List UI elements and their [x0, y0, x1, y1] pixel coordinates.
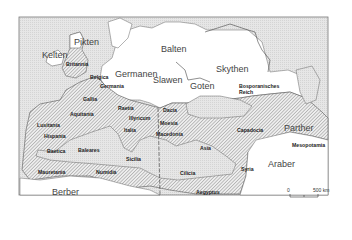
province-label: Mauretania [38, 170, 65, 175]
province-label: Mesopotamia [292, 143, 325, 148]
province-label: Syria [241, 167, 254, 172]
province-label: Raetia [118, 106, 134, 111]
province-label: Reich [239, 90, 253, 95]
people-label: Pikten [74, 38, 99, 47]
province-label: Lusitania [37, 123, 60, 128]
scale-start-label: 0 [287, 187, 290, 193]
province-label: Baleares [78, 148, 100, 153]
province-label: Sicilia [126, 157, 141, 162]
people-label: Germanen [115, 70, 158, 79]
province-label: Dacia [163, 108, 177, 113]
province-label: Italia [124, 128, 136, 133]
province-label: Capadocia [237, 128, 263, 133]
people-label: Goten [190, 82, 215, 91]
province-label: Belgica [90, 75, 108, 80]
province-label: Gallia [83, 97, 97, 102]
people-label: Skythen [216, 65, 249, 74]
people-label: Kelten [42, 51, 68, 60]
people-label: Parther [284, 124, 314, 133]
people-label: Berber [52, 188, 79, 197]
province-label: Illyricum [129, 116, 150, 121]
province-label: Macedonia [156, 132, 183, 137]
province-label: Moesia [160, 121, 178, 126]
scale-end-label: 500 km [313, 187, 329, 193]
people-label: Araber [268, 160, 295, 169]
province-label: Numidia [96, 170, 116, 175]
people-label: Balten [161, 45, 187, 54]
province-label: Britannia [66, 62, 88, 67]
province-label: Hispania [44, 134, 66, 139]
province-label: Baetica [47, 149, 65, 154]
province-label: Germania [100, 84, 124, 89]
province-label: Cilicia [180, 171, 195, 176]
people-label: Slawen [153, 76, 183, 85]
province-label: Aegyptus [196, 190, 220, 195]
province-label: Asia [200, 146, 211, 151]
province-label: Aquitania [70, 112, 94, 117]
